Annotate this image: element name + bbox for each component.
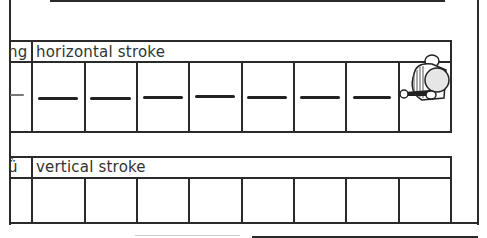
stroke-sample xyxy=(143,96,183,99)
stroke-sample xyxy=(195,95,235,98)
row2-cell-divider xyxy=(398,177,400,223)
row2-cell-divider xyxy=(188,177,190,223)
row1-cell-divider xyxy=(293,61,295,133)
outer-frame-left xyxy=(9,0,11,225)
row1-cell-divider xyxy=(241,61,243,133)
row1-prefix-fragment: ng xyxy=(8,45,27,60)
row2-label-divider xyxy=(31,156,33,223)
stroke-sample xyxy=(300,96,340,99)
partial-stroke-sample xyxy=(10,94,24,96)
row2-cell-divider xyxy=(241,177,243,223)
row1-label-divider xyxy=(31,40,33,133)
row1-cell-divider xyxy=(136,61,138,133)
row2-label: vertical stroke xyxy=(36,160,146,175)
row1-header-bottom xyxy=(9,61,452,63)
outer-frame-right xyxy=(477,0,479,225)
row1-cell-divider xyxy=(345,61,347,133)
row1-label: horizontal stroke xyxy=(36,45,165,60)
stroke-sample xyxy=(90,97,131,100)
bottom-divider-right xyxy=(252,236,478,238)
row1-bottom xyxy=(9,131,452,133)
row2-cell-divider xyxy=(293,177,295,223)
row1-top xyxy=(9,40,452,42)
row2-prefix-fragment: ǜ xyxy=(8,160,18,175)
row2-right xyxy=(450,156,452,223)
pencil-character-icon xyxy=(394,52,454,107)
row2-bottom xyxy=(9,222,452,224)
row1-cell-divider xyxy=(188,61,190,133)
row2-cell-divider xyxy=(345,177,347,223)
row2-cell-divider xyxy=(136,177,138,223)
bottom-divider-left xyxy=(135,235,240,236)
row2-header-bottom xyxy=(9,177,452,179)
stroke-sample xyxy=(247,96,287,99)
top-divider xyxy=(50,0,445,2)
row1-cell-divider xyxy=(84,61,86,133)
stroke-sample xyxy=(353,96,391,99)
row2-cell-divider xyxy=(84,177,86,223)
stroke-sample xyxy=(38,97,78,100)
